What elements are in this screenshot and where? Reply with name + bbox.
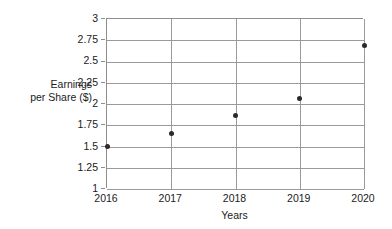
gridline-h-1: [107, 189, 364, 190]
x-tick-label-2017: 2017: [147, 192, 193, 204]
data-point-2020[interactable]: [362, 43, 367, 48]
data-point-2018[interactable]: [233, 113, 238, 118]
y-tick-label-1-25: 1.25: [52, 162, 98, 173]
y-tick-mark-1: [101, 188, 105, 189]
x-axis-title: Years: [106, 209, 363, 221]
y-tick-label-1-5: 1.5: [52, 141, 98, 152]
chart-container: Earnings per Share ($) 3 2.75 2.5 2.25 2…: [0, 0, 392, 229]
y-tick-label-2: 2: [52, 98, 98, 109]
x-tick-label-2016: 2016: [83, 192, 129, 204]
gridline-v-2017: [171, 19, 172, 189]
y-tick-label-2-5: 2.5: [52, 55, 98, 66]
y-tick-label-2-25: 2.25: [52, 77, 98, 88]
y-tick-mark-2-25: [101, 82, 105, 83]
y-tick-label-2-75: 2.75: [52, 34, 98, 45]
data-point-2019[interactable]: [297, 96, 302, 101]
gridline-v-2018: [236, 19, 237, 189]
y-tick-mark-1-25: [101, 167, 105, 168]
y-tick-mark-3: [101, 18, 105, 19]
y-tick-mark-2-5: [101, 61, 105, 62]
y-tick-label-1-75: 1.75: [52, 119, 98, 130]
y-tick-mark-2-75: [101, 39, 105, 40]
y-tick-mark-2: [101, 103, 105, 104]
x-tick-label-2018: 2018: [212, 192, 258, 204]
data-point-2017[interactable]: [169, 131, 174, 136]
y-tick-mark-1-75: [101, 124, 105, 125]
x-tick-label-2019: 2019: [276, 192, 322, 204]
x-tick-label-2020: 2020: [340, 192, 386, 204]
gridline-v-2019: [300, 19, 301, 189]
data-point-2016[interactable]: [105, 144, 110, 149]
y-tick-label-3: 3: [52, 13, 98, 24]
plot-area: [106, 18, 363, 188]
